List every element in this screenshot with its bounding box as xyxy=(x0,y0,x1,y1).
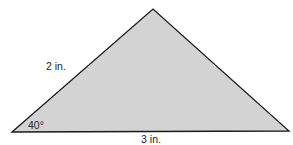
side-length-label: 2 in. xyxy=(46,60,66,72)
angle-label: 40° xyxy=(28,119,44,131)
triangle-diagram: 2 in. 40° 3 in. xyxy=(0,0,293,145)
base-length-label: 3 in. xyxy=(141,133,161,145)
